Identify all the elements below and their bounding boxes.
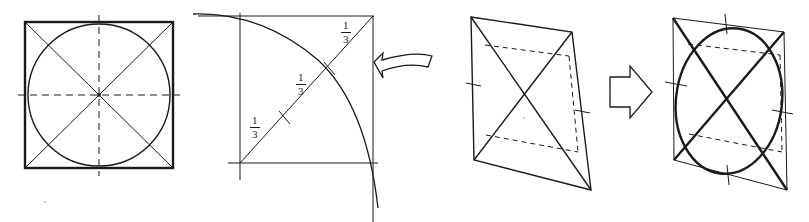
tick-left-edge-midpoint [665, 82, 687, 86]
tick-top-edge-midpoint [725, 14, 727, 34]
tick-right-edge-midpoint [772, 110, 793, 114]
paper-speck [44, 201, 46, 203]
paper-speck [523, 117, 525, 119]
figure-parallelogram-with-inscribed-ellipse [0, 0, 809, 222]
dashed-lower-median [689, 134, 782, 152]
diagonal-tr-bl [674, 32, 784, 160]
diagram-canvas: 1 3 1 3 1 3 [0, 0, 809, 222]
